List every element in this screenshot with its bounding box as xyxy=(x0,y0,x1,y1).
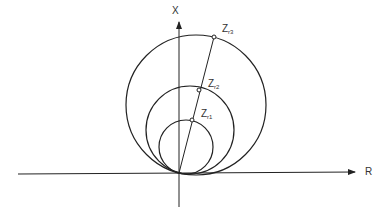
radial-line xyxy=(179,37,214,173)
label-zr3: Zr3 xyxy=(222,24,233,35)
point-zr1 xyxy=(190,118,194,122)
r-axis-label: R xyxy=(365,167,372,177)
point-zr2 xyxy=(197,88,201,92)
impedance-circle-diagram xyxy=(0,0,380,219)
point-zr3 xyxy=(212,35,216,39)
label-zr1: Zr1 xyxy=(201,109,212,120)
x-axis-label: X xyxy=(172,6,179,16)
label-zr2: Zr2 xyxy=(208,79,219,90)
